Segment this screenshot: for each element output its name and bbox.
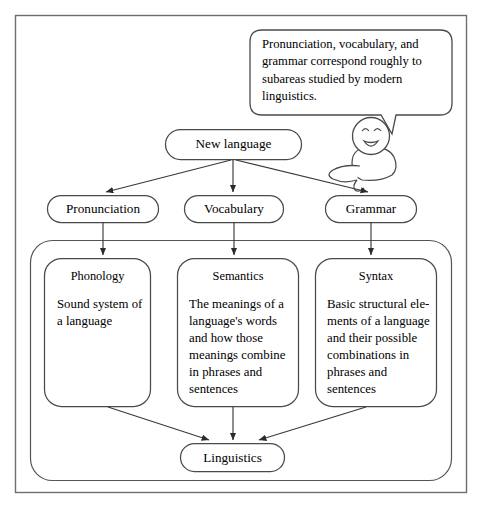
diagram-root: Pronunciation, vocabulary, and grammar c… — [0, 0, 484, 515]
node-linguistics-label: Linguistics — [180, 450, 285, 467]
node-pronunciation-label: Pronunciation — [47, 201, 159, 218]
node-grammar-label: Grammar — [325, 201, 417, 218]
arrow-root-to-pronunciation — [106, 160, 231, 192]
node-vocabulary-label: Vocabulary — [184, 201, 284, 218]
box-phonology-title: Phonology — [44, 269, 151, 285]
node-new-language-label: New language — [165, 136, 302, 153]
box-semantics-body: The meanings of a language's words and h… — [189, 296, 291, 398]
smiling-character-figure — [329, 118, 396, 192]
arrow-phonology-to-linguistics — [108, 407, 209, 440]
box-semantics-title: Semantics — [177, 269, 299, 285]
box-syntax-body: Basic structural ele- ments of a languag… — [327, 296, 433, 398]
box-syntax-title: Syntax — [315, 269, 437, 285]
arrow-syntax-to-linguistics — [259, 407, 366, 440]
box-phonology-body: Sound system of a language — [57, 296, 145, 330]
speech-bubble-text: Pronunciation, vocabulary, and grammar c… — [262, 36, 440, 106]
